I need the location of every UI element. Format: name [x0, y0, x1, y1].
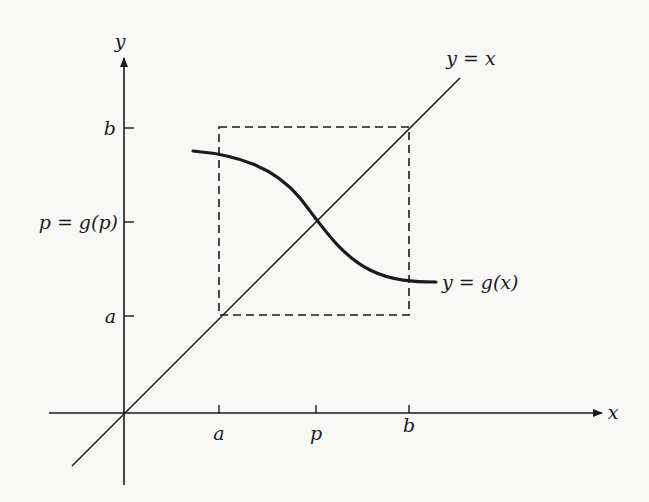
- identity-line: [72, 78, 460, 466]
- g-curve: [193, 151, 436, 282]
- dashed-box: [219, 127, 409, 315]
- y-tick-label-p: p = g(p): [39, 211, 118, 233]
- x-tick-label-b: b: [403, 414, 415, 436]
- x-tick-label-p: p: [310, 422, 322, 444]
- fixed-point-diagram: y x a p b b p = g(p) a y = x y = g(x): [0, 0, 649, 502]
- x-axis-label: x: [608, 401, 619, 423]
- y-axis-label: y: [114, 30, 126, 52]
- y-tick-label-b: b: [104, 117, 116, 139]
- x-tick-label-a: a: [213, 422, 224, 444]
- g-curve-label: y = g(x): [441, 271, 518, 293]
- y-tick-label-a: a: [105, 305, 116, 327]
- diagram-canvas: y x a p b b p = g(p) a y = x y = g(x): [0, 0, 649, 502]
- identity-line-label: y = x: [445, 47, 496, 69]
